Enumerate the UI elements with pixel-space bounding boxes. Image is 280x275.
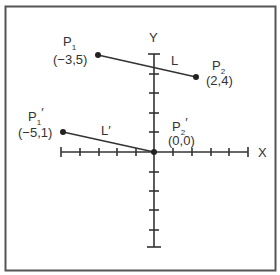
line-l-label: L	[171, 53, 178, 68]
p1-label: P1 (−3,5)	[53, 34, 87, 67]
line-l-prime-label: L′	[101, 123, 111, 138]
point-p2-prime	[151, 149, 157, 155]
p2-coords: (2,4)	[206, 73, 233, 88]
coordinate-diagram: X Y L L′ P1 (−3,5) P2 (2,4) P1′ (−5,1)	[0, 0, 280, 275]
point-p2	[193, 74, 199, 80]
p1-prime-label: P1′ (−5,1)	[18, 105, 52, 140]
p1-coords: (−3,5)	[53, 52, 87, 67]
x-axis-label: X	[258, 145, 267, 160]
p1-prime-coords: (−5,1)	[18, 125, 52, 140]
svg-text:P1: P1	[63, 34, 77, 52]
line-l	[98, 55, 196, 77]
y-axis-label: Y	[149, 30, 158, 45]
p2-label: P2 (2,4)	[206, 58, 233, 88]
point-p1-prime	[60, 129, 66, 135]
p2-prime-coords: (0,0)	[168, 133, 195, 148]
p2-prime-label: P2′ (0,0)	[168, 115, 195, 148]
svg-text:P1′: P1′	[28, 105, 44, 127]
point-p1	[95, 52, 101, 58]
